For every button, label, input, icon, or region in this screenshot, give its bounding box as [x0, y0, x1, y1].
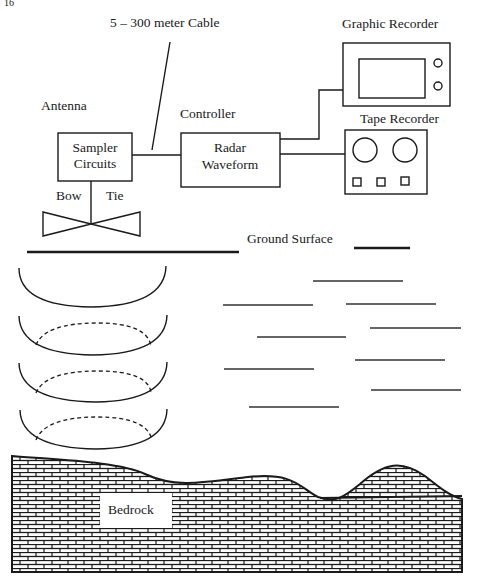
sampler-label-line2: Circuits: [74, 156, 117, 171]
cable-pointer: [152, 42, 170, 150]
wavefronts: [19, 266, 167, 449]
tape-recorder-box: [345, 130, 427, 194]
bow-tie-left-icon: [43, 212, 91, 236]
controller-label: Controller: [180, 106, 236, 121]
tie-label: Tie: [106, 188, 124, 203]
sampler-label-line1: Sampler: [73, 140, 118, 155]
radar-label-line1: Radar: [214, 140, 247, 155]
tape-button-icon: [353, 178, 361, 186]
corner-mark: 16: [4, 0, 14, 8]
ground-surface-label: Ground Surface: [247, 231, 333, 246]
tape-button-icon: [377, 178, 385, 186]
bedrock-layer: [12, 456, 462, 572]
graphic-recorder-knob-icon: [434, 82, 442, 90]
tape-button-icon: [401, 177, 409, 185]
bow-label: Bow: [56, 188, 82, 203]
bow-tie-right-icon: [91, 212, 140, 236]
graphic-recorder-connection: [280, 90, 343, 139]
gpr-diagram: 16 5 – 300 meter Cable Graphic Recorder …: [0, 0, 477, 581]
tape-reel-icon: [393, 138, 417, 162]
tape-reel-icon: [353, 138, 377, 162]
radar-label-line2: Waveform: [202, 157, 259, 172]
subsurface-reflectors: [223, 281, 461, 407]
antenna-label: Antenna: [41, 98, 87, 113]
graphic-recorder-knob-icon: [434, 59, 442, 67]
graphic-recorder-screen: [359, 59, 425, 98]
tape-recorder-label: Tape Recorder: [360, 111, 439, 126]
bedrock-label: Bedrock: [108, 502, 154, 517]
graphic-recorder-label: Graphic Recorder: [342, 16, 439, 31]
cable-label: 5 – 300 meter Cable: [110, 15, 219, 30]
